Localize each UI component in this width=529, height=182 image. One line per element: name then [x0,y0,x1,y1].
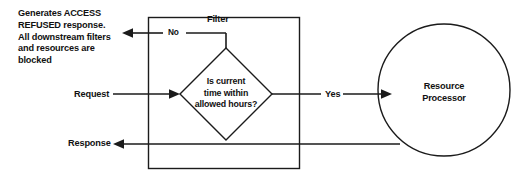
no-branch-label: No [168,27,179,39]
response-arrow-head-icon [113,139,124,149]
flowchart-diagram: Generates ACCESS REFUSED response. All d… [0,0,529,182]
request-arrow-head-icon [169,89,180,99]
decision-label: Is current time within allowed hours? [186,76,266,111]
yes-branch-label: Yes [325,89,340,101]
access-refused-note: Generates ACCESS REFUSED response. All d… [18,8,138,67]
response-label: Response [68,138,111,150]
request-label: Request [74,89,109,101]
yes-arrow-head-icon [381,89,392,99]
resource-processor-label: Resource Processor [404,80,484,104]
filter-container-label: Filter [207,14,229,26]
